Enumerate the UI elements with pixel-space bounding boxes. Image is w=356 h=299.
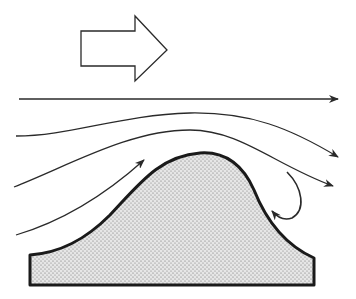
streamline-2 xyxy=(16,113,338,157)
leeward-eddy xyxy=(272,172,301,219)
wind-direction-arrow-icon xyxy=(81,16,167,81)
hill-shape xyxy=(30,153,314,285)
diagram-svg xyxy=(0,0,356,299)
airflow-diagram: Airflow over a hill (windward lift and l… xyxy=(0,0,356,299)
